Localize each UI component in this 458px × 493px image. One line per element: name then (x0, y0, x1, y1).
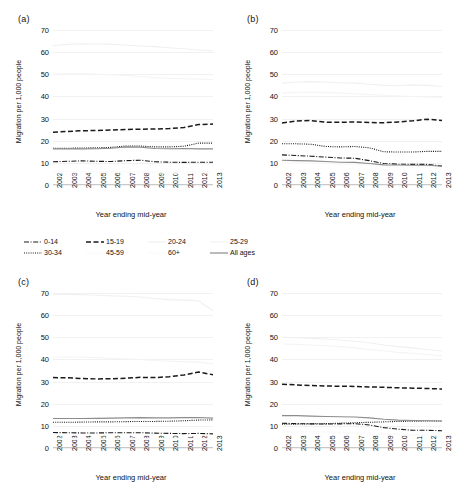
series-line (282, 82, 442, 87)
y-axis-tick-label: 40 (41, 92, 49, 101)
y-axis-tick-label: 30 (270, 114, 278, 123)
panel-b-plot: 0102030405060702002200320042005200620072… (282, 30, 442, 185)
legend-swatch-icon (86, 249, 104, 257)
panel-d-plot: 0102030405060702002200320042005200620072… (282, 293, 442, 448)
legend-swatch-icon (148, 238, 166, 246)
y-axis-tick-label: 40 (41, 355, 49, 364)
series-line (53, 433, 213, 434)
panel-a-x-axis-title: Year ending mid-year (46, 210, 216, 219)
legend-item-60-[interactable]: 60+ (148, 249, 210, 257)
series-layer (282, 30, 442, 185)
legend-item-0-14[interactable]: 0-14 (24, 238, 86, 246)
series-line (53, 417, 213, 418)
legend-item-label: 60+ (168, 249, 180, 256)
series-layer (53, 293, 213, 448)
y-axis-tick-label: 0 (45, 181, 49, 190)
series-layer (53, 30, 213, 185)
legend-item-label: 15-19 (106, 238, 124, 245)
legend-row: 0-1415-1920-2425-29 (24, 236, 274, 247)
panel-d-tag: (d) (247, 277, 259, 287)
legend: 0-1415-1920-2425-2930-3445-5960+All ages (24, 236, 274, 258)
series-line (282, 421, 442, 424)
y-axis-tick-label: 10 (41, 421, 49, 430)
y-axis-tick-label: 30 (41, 114, 49, 123)
y-axis-tick-label: 60 (270, 311, 278, 320)
series-line (53, 44, 213, 51)
series-line (53, 372, 213, 379)
legend-row: 30-3445-5960+All ages (24, 247, 274, 258)
y-axis-tick-label: 0 (274, 444, 278, 453)
y-axis-tick-label: 60 (41, 48, 49, 57)
series-line (53, 357, 213, 364)
legend-item-30-34[interactable]: 30-34 (24, 249, 86, 257)
x-axis-tick-label: 2013 (445, 172, 452, 188)
legend-swatch-icon (148, 249, 166, 257)
panel-d-x-axis-title: Year ending mid-year (275, 473, 445, 482)
panel-c-x-axis-title: Year ending mid-year (46, 473, 216, 482)
legend-item-45-59[interactable]: 45-59 (86, 249, 148, 257)
legend-item-25-29[interactable]: 25-29 (210, 238, 272, 246)
panel-c: (c) Migration per 1,000 people 010203040… (0, 265, 229, 493)
series-line (282, 344, 442, 356)
y-axis-tick-label: 60 (41, 311, 49, 320)
legend-item-label: 0-14 (44, 238, 58, 245)
panel-b: (b) Migration per 1,000 people 010203040… (229, 2, 458, 230)
y-axis-tick-label: 70 (41, 289, 49, 298)
y-axis-tick-label: 40 (270, 355, 278, 364)
series-line (282, 119, 442, 123)
legend-item-label: 45-59 (106, 249, 124, 256)
panel-c-plot: 0102030405060702002200320042005200620072… (53, 293, 213, 448)
legend-item-all-ages[interactable]: All ages (210, 249, 272, 257)
series-line (53, 160, 213, 162)
panel-a: (a) Migration per 1,000 people 010203040… (0, 2, 229, 230)
y-axis-tick-label: 50 (41, 333, 49, 342)
y-axis-tick-label: 0 (274, 181, 278, 190)
series-line (53, 171, 213, 172)
series-line (53, 173, 213, 174)
panel-a-y-axis-title: Migration per 1,000 people (15, 37, 22, 167)
series-line (282, 144, 442, 152)
y-axis-tick-label: 40 (270, 92, 278, 101)
y-axis-tick-label: 50 (270, 333, 278, 342)
series-line (282, 416, 442, 421)
panel-b-x-axis-title: Year ending mid-year (275, 210, 445, 219)
series-line (53, 124, 213, 132)
x-axis-tick-label: 2013 (216, 172, 223, 188)
legend-item-20-24[interactable]: 20-24 (148, 238, 210, 246)
y-axis-tick-label: 60 (270, 48, 278, 57)
y-axis-tick-label: 20 (41, 136, 49, 145)
x-axis-tick-label: 2013 (216, 435, 223, 451)
y-axis-tick-label: 20 (41, 399, 49, 408)
panel-b-y-axis-title: Migration per 1,000 people (244, 37, 251, 167)
legend-swatch-icon (210, 238, 228, 246)
y-axis-tick-label: 10 (41, 158, 49, 167)
y-axis-tick-label: 70 (41, 26, 49, 35)
legend-swatch-icon (210, 249, 228, 257)
y-axis-tick-label: 20 (270, 136, 278, 145)
series-line (53, 147, 213, 149)
panel-a-tag: (a) (18, 14, 30, 24)
series-line (53, 294, 213, 311)
panel-a-plot: 0102030405060702002200320042005200620072… (53, 30, 213, 185)
panel-c-y-axis-title: Migration per 1,000 people (15, 300, 22, 430)
y-axis-tick-label: 10 (270, 158, 278, 167)
legend-swatch-icon (86, 238, 104, 246)
series-line (53, 74, 213, 80)
migration-by-age-figure: (a) Migration per 1,000 people 010203040… (0, 0, 458, 493)
panel-d: (d) Migration per 1,000 people 010203040… (229, 265, 458, 493)
legend-item-label: 25-29 (230, 238, 248, 245)
y-axis-tick-label: 0 (45, 444, 49, 453)
series-line (282, 384, 442, 389)
legend-swatch-icon (24, 249, 42, 257)
legend-item-15-19[interactable]: 15-19 (86, 238, 148, 246)
panel-c-tag: (c) (18, 277, 29, 287)
series-line (53, 420, 213, 422)
y-axis-tick-label: 20 (270, 399, 278, 408)
legend-item-label: All ages (230, 249, 255, 256)
legend-swatch-icon (24, 238, 42, 246)
panel-d-y-axis-title: Migration per 1,000 people (244, 300, 251, 430)
y-axis-tick-label: 30 (270, 377, 278, 386)
series-line (282, 423, 442, 431)
x-axis-tick-label: 2013 (445, 435, 452, 451)
legend-item-label: 30-34 (44, 249, 62, 256)
